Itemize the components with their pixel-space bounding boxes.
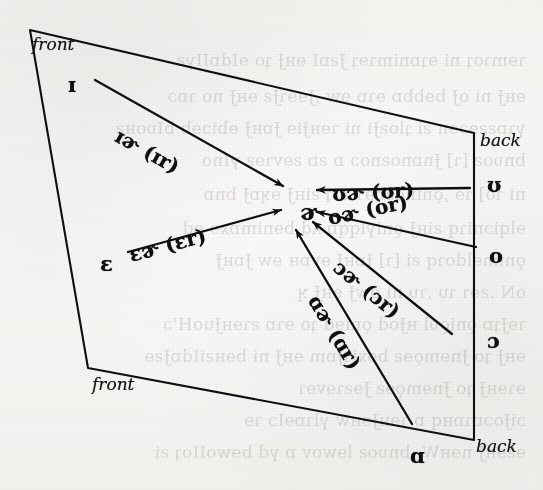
figure-canvas: eɔlɐɐ ɒiʇƨiɒlɿɘmɿoʇ ni ɘʇɒnimɿɘʇ ɈƨɒI ɘʜ… <box>0 0 543 490</box>
vowel-quadrilateral-drawing <box>0 0 543 490</box>
corner-label-front-bottom: front <box>92 376 134 393</box>
corner-label-back-top: back <box>480 132 521 149</box>
corner-label-front-top: front <box>32 36 74 53</box>
vowel-symbol-near-close-near-front: ɪ <box>68 74 76 95</box>
vowel-symbol-open-mid-back: ɔ <box>487 330 500 351</box>
vowel-symbol-near-close-near-back: ʊ <box>487 174 501 195</box>
vowel-symbol-open-mid-front: ɛ <box>100 253 113 274</box>
corner-label-back-bottom: back <box>476 438 517 455</box>
arrow-ar <box>296 230 412 424</box>
center-vowel-schwar: ɚ <box>300 200 321 223</box>
vowel-symbol-close-mid-back: o <box>489 245 503 266</box>
vowel-symbol-open-back: ɑ <box>410 445 425 466</box>
